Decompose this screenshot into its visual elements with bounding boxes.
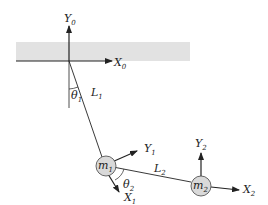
ground-band	[16, 42, 190, 61]
y1-axis	[112, 151, 137, 162]
label-y1: Y1	[144, 142, 156, 157]
label-x2: X2	[242, 183, 256, 198]
link-l1	[69, 61, 102, 157]
label-y0: Y0	[64, 12, 76, 27]
label-x1: X1	[123, 191, 136, 205]
label-l1: L1	[90, 86, 103, 101]
pendulum-diagram: Y0 X0 θ1 L1 m1 Y1 θ2 X1 L2 m2 Y2 X2	[0, 0, 268, 205]
label-l2: L2	[153, 162, 166, 177]
x2-axis	[211, 187, 239, 190]
label-y2: Y2	[195, 137, 207, 152]
x1-axis	[108, 174, 119, 192]
label-theta1: θ1	[71, 89, 82, 104]
